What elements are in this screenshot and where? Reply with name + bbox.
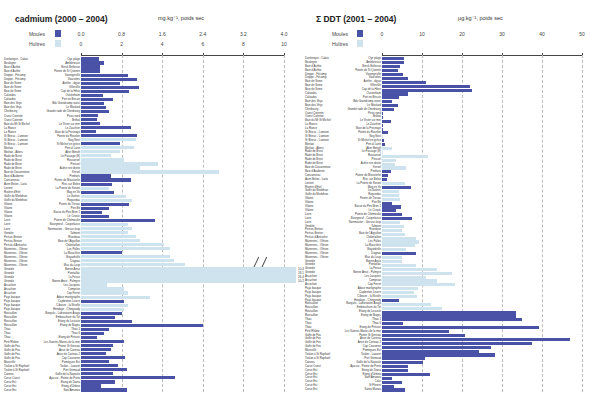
table-row: Corse EstSanta Manza: [300, 388, 598, 392]
tick-label: 20: [459, 31, 465, 37]
x-axis-line: [81, 55, 284, 56]
cadmium-chart-panel: cadmium (2000 – 2004) mg.kg⁻¹, poids sec…: [0, 0, 300, 399]
mussel-tick-label: 3.2: [240, 31, 247, 37]
ddt-chart-panel: Σ DDT (2001 – 2004) µg.kg⁻¹, poids sec M…: [300, 0, 598, 399]
legend-mussel-swatch: [55, 30, 61, 37]
zone-label: Corse Est: [4, 388, 16, 392]
cadmium-unit-label: mg.kg⁻¹, poids sec: [158, 15, 204, 21]
zone-label: Corse Est: [305, 388, 317, 392]
mussel-tick-label: 0.0: [78, 31, 85, 37]
tick-label: 50: [579, 31, 585, 37]
legend-oyster-label: Huîtres: [5, 41, 45, 47]
table-row: Corse EstSant'Amanza: [0, 388, 300, 392]
oyster-tick-label: 4: [161, 41, 164, 47]
site-label: Santa Manza: [365, 388, 381, 392]
legend-mussel-label-ddt: Moules: [308, 31, 348, 37]
ddt-unit-label: µg.kg⁻¹, poids sec: [458, 15, 503, 21]
legend-oyster-swatch-ddt: [357, 40, 363, 47]
mussel-bar: [382, 388, 405, 391]
legend-mussel-label: Moules: [5, 31, 45, 37]
oyster-tick-label: 8: [242, 41, 245, 47]
axis-tick: [382, 53, 383, 56]
mussel-tick-label: 1.6: [159, 31, 166, 37]
tick-label: 40: [539, 31, 545, 37]
oyster-tick-label: 0: [80, 41, 83, 47]
oyster-tick-label: 6: [201, 41, 204, 47]
mussel-bar: [81, 388, 127, 391]
tick-label: 10: [419, 31, 425, 37]
tick-label: 0: [381, 31, 384, 37]
ddt-chart-title: Σ DDT (2001 – 2004): [316, 14, 396, 24]
oyster-tick-label: 10: [281, 41, 287, 47]
legend-oyster-label-ddt: Huîtres: [308, 41, 348, 47]
mussel-tick-label: 2.4: [199, 31, 206, 37]
mussel-tick-label: 0.8: [118, 31, 125, 37]
legend-oyster-swatch: [55, 40, 61, 47]
oyster-tick-label: 2: [120, 41, 123, 47]
x-axis-line: [382, 55, 582, 56]
site-label: Sant'Amanza: [63, 388, 80, 392]
axis-tick: [81, 53, 82, 56]
tick-label: 30: [499, 31, 505, 37]
mussel-tick-label: 4.0: [281, 31, 288, 37]
legend-mussel-swatch-ddt: [357, 30, 363, 37]
cadmium-chart-title: cadmium (2000 – 2004): [15, 14, 108, 24]
